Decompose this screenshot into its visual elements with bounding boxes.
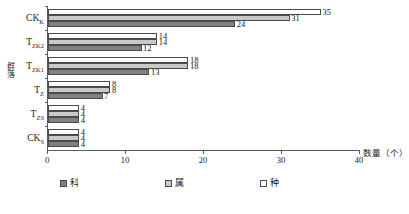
bar-科[interactable] <box>48 21 235 27</box>
legend-label: 属 <box>175 178 184 188</box>
legend-item-科[interactable]: 科 <box>60 178 79 188</box>
bar-value-label: 4 <box>79 116 85 125</box>
category-label: TZS <box>0 109 44 121</box>
category-label: CKS <box>0 133 44 145</box>
bar-row: 13 <box>48 69 360 75</box>
bar-科[interactable] <box>48 69 149 75</box>
category-tick <box>45 30 48 31</box>
bar-group: 181813 <box>48 54 359 78</box>
x-axis-tick-label: 30 <box>277 156 286 165</box>
plot-area: 353124141412181813887444444 <box>47 6 359 150</box>
x-axis-tick <box>281 150 282 154</box>
category-tick <box>45 54 48 55</box>
bar-row: 4 <box>48 141 360 147</box>
bar-group: 887 <box>48 78 359 102</box>
x-axis-tick-label: 20 <box>199 156 208 165</box>
x-axis-tick <box>125 150 126 154</box>
legend-label: 科 <box>70 178 79 188</box>
bar-group: 444 <box>48 126 359 150</box>
bar-科[interactable] <box>48 141 79 147</box>
bar-row: 7 <box>48 93 360 99</box>
category-tick <box>45 6 48 7</box>
bar-group: 353124 <box>48 6 359 30</box>
bar-row: 12 <box>48 45 360 51</box>
legend-item-属[interactable]: 属 <box>165 178 184 188</box>
legend-swatch-icon <box>165 180 172 187</box>
legend-swatch-icon <box>260 180 267 187</box>
bar-row: 24 <box>48 21 360 27</box>
category-label: TZK2 <box>0 37 44 49</box>
bar-value-label: 13 <box>149 68 159 77</box>
x-axis-tick-label: 40 <box>355 156 364 165</box>
bar-row: 4 <box>48 117 360 123</box>
category-axis-labels: CKKTZK2TZK1TZTZSCKS <box>14 6 46 150</box>
category-tick <box>45 78 48 79</box>
bar-value-label: 4 <box>79 140 85 149</box>
x-axis-tick <box>47 150 48 154</box>
legend-item-种[interactable]: 种 <box>260 178 279 188</box>
x-axis-title: 数量（个） <box>363 148 408 158</box>
x-axis-tick <box>359 150 360 154</box>
bar-科[interactable] <box>48 117 79 123</box>
bar-value-label: 24 <box>235 20 245 29</box>
bar-value-label: 7 <box>103 92 109 101</box>
x-axis-tick-label: 10 <box>121 156 130 165</box>
category-label: TZK1 <box>0 61 44 73</box>
legend-label: 种 <box>270 178 279 188</box>
bar-chart: 群落 CKKTZK2TZK1TZTZSCKS 35312414141218181… <box>0 0 409 214</box>
bar-科[interactable] <box>48 45 142 51</box>
category-label: CKK <box>0 13 44 25</box>
legend-swatch-icon <box>60 180 67 187</box>
category-tick <box>45 126 48 127</box>
category-label: TZ <box>0 85 44 97</box>
bar-科[interactable] <box>48 93 103 99</box>
chart-legend: 科属种 <box>60 178 350 194</box>
x-axis-tick-label: 0 <box>45 156 49 165</box>
x-axis-tick <box>203 150 204 154</box>
category-tick <box>45 102 48 103</box>
bar-value-label: 12 <box>142 44 152 53</box>
bar-group: 444 <box>48 102 359 126</box>
bar-group: 141412 <box>48 30 359 54</box>
